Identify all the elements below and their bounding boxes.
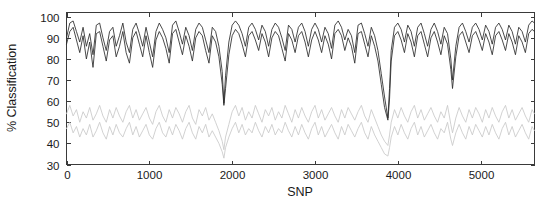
x-axis-tick-labels: 010002000300040005000 <box>64 169 494 181</box>
chart-series-group <box>67 21 535 158</box>
x-tick-label-1000: 1000 <box>137 169 163 181</box>
y-tick-label-50: 50 <box>47 117 60 129</box>
series-lower-dark-line <box>67 27 535 120</box>
y-tick-label-70: 70 <box>47 75 60 87</box>
x-tick-label-5000: 5000 <box>469 169 495 181</box>
chart-plot-area: 30405060708090100 010002000300040005000 … <box>0 0 553 205</box>
y-tick-label-60: 60 <box>47 96 60 108</box>
y-tick-label-90: 90 <box>47 33 60 45</box>
y-axis-tick-labels: 30405060708090100 <box>40 12 59 172</box>
y-axis-ticks <box>67 18 535 166</box>
y-tick-label-100: 100 <box>40 12 59 24</box>
y-tick-label-30: 30 <box>47 160 60 172</box>
x-axis-ticks <box>68 13 482 165</box>
y-axis-title: % Classification <box>5 44 19 132</box>
series-lower-gray-line <box>67 122 535 158</box>
x-tick-label-4000: 4000 <box>386 169 412 181</box>
x-tick-label-0: 0 <box>64 169 70 181</box>
x-tick-label-3000: 3000 <box>303 169 329 181</box>
x-tick-label-2000: 2000 <box>220 169 246 181</box>
x-axis-title: SNP <box>287 185 313 199</box>
y-tick-label-40: 40 <box>47 138 60 150</box>
y-tick-label-80: 80 <box>47 54 60 66</box>
chart-figure: 30405060708090100 010002000300040005000 … <box>0 0 553 205</box>
